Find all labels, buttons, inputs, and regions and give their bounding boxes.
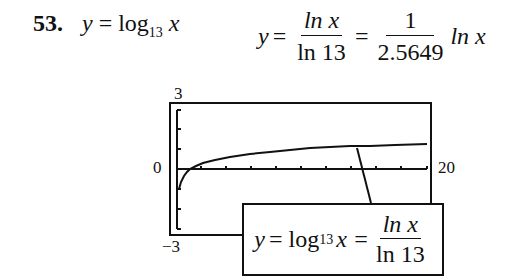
log-curve (179, 144, 427, 189)
callout-connector (357, 148, 371, 203)
callout-fraction: ln x ln 13 (373, 210, 428, 269)
graph-callout-box: y = log13 x = ln x ln 13 (242, 203, 444, 276)
